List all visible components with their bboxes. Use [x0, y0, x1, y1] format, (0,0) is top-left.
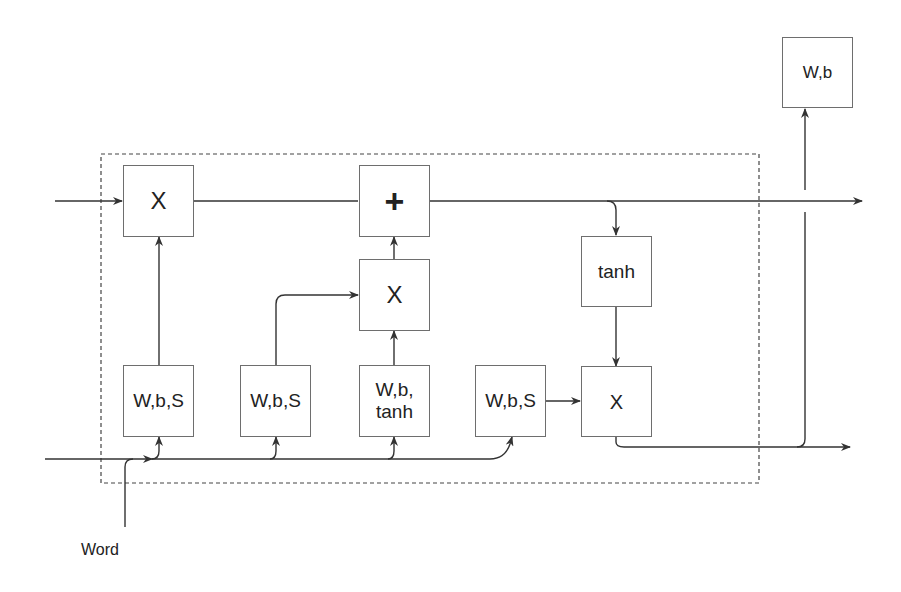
output-layer-box: W,b	[782, 37, 853, 108]
plus-icon: +	[385, 182, 405, 221]
cell-boundary	[101, 154, 759, 483]
candidate-gate-label: W,b, tanh	[375, 379, 413, 423]
candidate-gate-box: W,b, tanh	[359, 365, 430, 437]
to-gate-3	[270, 437, 394, 459]
add-box: +	[359, 165, 430, 237]
multiply-icon: X	[610, 391, 623, 413]
multiply-icon: X	[150, 187, 166, 215]
to-gate-4	[388, 437, 512, 459]
forget-multiply-box: X	[123, 165, 194, 237]
hidden-state-out	[616, 437, 850, 447]
output-multiply-box: X	[581, 366, 652, 437]
forget-gate-box: W,b,S	[123, 365, 194, 437]
to-gate-1	[152, 437, 159, 459]
forget-gate-label: W,b,S	[133, 390, 184, 412]
input-multiply-box: X	[359, 259, 430, 331]
tanh-label: tanh	[598, 261, 635, 283]
multiply-icon: X	[386, 281, 402, 309]
input-gate-to-mult	[276, 295, 358, 366]
hidden-branch-lower	[797, 212, 805, 447]
lstm-diagram: X + X tanh X W,b,S W,b,S W,b, tanh W,b,S…	[0, 0, 901, 592]
input-gate-box: W,b,S	[240, 365, 311, 437]
output-gate-box: W,b,S	[475, 365, 546, 437]
cell-to-tanh	[607, 201, 616, 235]
tanh-box: tanh	[581, 236, 652, 307]
to-gate-2	[152, 437, 276, 459]
output-layer-label: W,b	[803, 62, 832, 84]
connections-layer	[0, 0, 901, 592]
output-gate-label: W,b,S	[485, 390, 536, 412]
word-input-label: Word	[81, 541, 119, 559]
word-input-line	[125, 459, 133, 527]
input-gate-label: W,b,S	[250, 390, 301, 412]
